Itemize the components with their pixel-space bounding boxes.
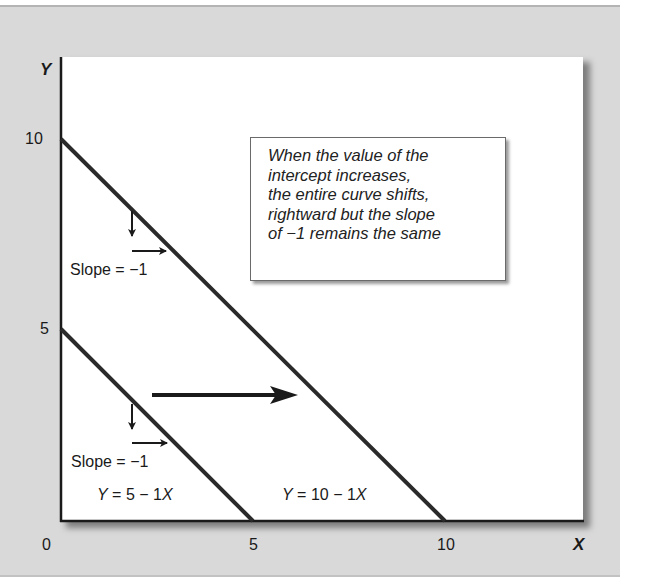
origin-label: 0 <box>42 536 51 554</box>
annotation-line: the entire curve shifts, <box>268 185 505 205</box>
eq-lower-y: Y <box>97 486 108 503</box>
y-axis-title: Y <box>40 60 51 80</box>
shift-right-arrow <box>152 386 298 404</box>
annotation-line: rightward but the slope <box>268 205 505 225</box>
annotation-line: intercept increases, <box>268 166 505 186</box>
x-tick-10: 10 <box>437 536 455 554</box>
y-tick-5: 5 <box>40 320 49 338</box>
y-tick-10: 10 <box>25 130 43 148</box>
x-axis-title: X <box>573 535 584 555</box>
annotation-line: of −1 remains the same <box>268 224 505 244</box>
equation-lower: Y = 5 − 1X <box>97 486 173 504</box>
slope-label-upper: Slope = −1 <box>70 261 147 279</box>
eq-upper-x: X <box>356 486 367 503</box>
annotation-line: When the value of the <box>268 146 505 166</box>
equation-upper: Y = 10 − 1X <box>282 486 367 504</box>
eq-upper-rest: = 10 − 1 <box>293 486 356 503</box>
eq-lower-rest: = 5 − 1 <box>108 486 162 503</box>
slope-label-lower: Slope = −1 <box>71 453 148 471</box>
eq-upper-y: Y <box>282 486 293 503</box>
x-tick-5: 5 <box>249 536 258 554</box>
annotation-box: When the value of the intercept increase… <box>250 137 506 281</box>
eq-lower-x: X <box>162 486 173 503</box>
